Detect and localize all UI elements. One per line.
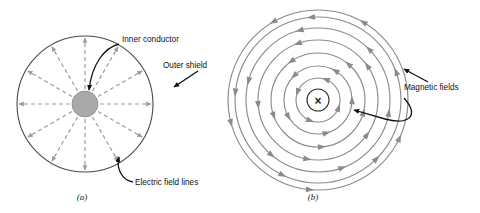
panel-a-caption: (a)	[77, 192, 88, 202]
magnetic-fields-label: Magnetic fields	[404, 83, 459, 92]
panel-b-caption: (b)	[308, 192, 319, 202]
coaxial-cable-field-diagram: Inner conductor Outer shield Electric fi…	[0, 0, 480, 213]
electric-field-lines-label: Electric field lines	[135, 178, 198, 187]
current-into-page-x-icon: ×	[314, 94, 321, 108]
inner-conductor-label: Inner conductor	[122, 35, 179, 44]
outer-shield-label: Outer shield	[163, 61, 208, 70]
inner-conductor-circle	[72, 91, 98, 117]
